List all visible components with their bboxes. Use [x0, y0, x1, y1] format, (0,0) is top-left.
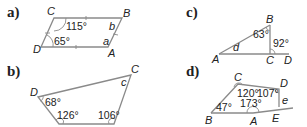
angle-d-value: 65° — [54, 35, 70, 47]
angle-d-value: 68° — [45, 96, 61, 108]
vertex-b: B — [205, 114, 212, 126]
vertex-c: C — [47, 5, 55, 17]
problem-b: b) D C 68° 126° 106° c — [7, 63, 139, 124]
vertex-e: E — [272, 112, 280, 124]
vertex-d: D — [280, 77, 288, 89]
unknown-b: b — [109, 20, 115, 32]
problem-label-b: b) — [7, 63, 20, 80]
unknown-a: a — [103, 35, 109, 47]
vertex-b: B — [266, 13, 273, 25]
angle-arc-d — [47, 35, 53, 47]
angle-b-value: 63° — [253, 28, 269, 40]
problem-label-c: c) — [186, 4, 198, 21]
angle-b-value: 47° — [216, 101, 232, 113]
unknown-c: c — [121, 76, 127, 88]
vertex-d: D — [284, 54, 292, 66]
problem-d: d) C D B A E 120° 107° 173° 47° e — [186, 63, 293, 127]
vertex-a: A — [107, 47, 115, 59]
angle-bottom-left-value: 126° — [57, 109, 79, 121]
geometry-exercises: a) C B D A 115° 65° b a c) B A C D 63° 9… — [0, 0, 307, 127]
angle-exterior-c-value: 92° — [273, 37, 289, 49]
vertex-d: D — [30, 86, 38, 98]
vertex-c: C — [234, 71, 242, 83]
unknown-d: d — [233, 41, 240, 53]
problem-label-d: d) — [186, 63, 199, 80]
vertex-a: A — [211, 53, 219, 65]
problem-c: c) B A C D 63° 92° d — [186, 4, 292, 66]
vertex-c: C — [131, 63, 139, 75]
vertex-d: D — [33, 43, 41, 55]
angle-a-value: 173° — [240, 97, 262, 109]
angle-bottom-right-value: 106° — [98, 109, 120, 121]
vertex-a: A — [249, 115, 257, 127]
vertex-b: B — [123, 7, 130, 19]
vertex-c: C — [266, 54, 274, 66]
angle-c-value: 115° — [66, 20, 87, 32]
unknown-e: e — [282, 94, 288, 106]
problem-label-a: a) — [7, 4, 20, 21]
angle-arc-c — [54, 18, 66, 31]
problem-a: a) C B D A 115° 65° b a — [7, 4, 130, 59]
